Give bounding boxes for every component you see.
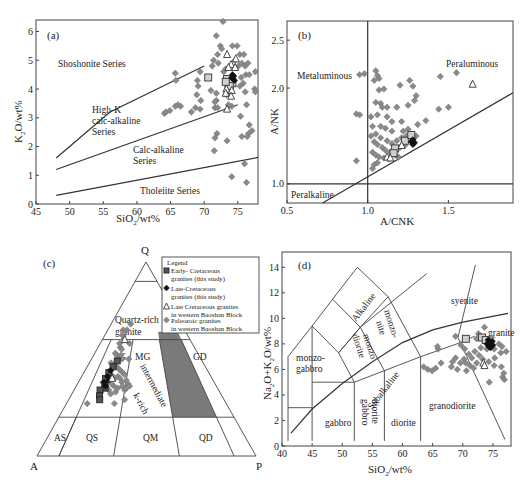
data-point-early-cretaceous [114, 358, 120, 364]
data-point-paleozoic [211, 148, 217, 154]
panel-b-ylabel: A/NK [268, 108, 280, 135]
field-monzogabbro-1: monzo- [296, 353, 325, 363]
field-high-k-2: calc-alkaline [92, 116, 141, 126]
field-metaluminous: Metaluminous [297, 71, 352, 81]
y-tick-label: 14 [269, 262, 279, 273]
data-point-late-cretaceous-baoshan [469, 80, 476, 87]
panel-b-xlabel: A/CNK [380, 215, 414, 227]
field-alkaline: Alkaline [350, 291, 378, 323]
apex-a: A [30, 460, 38, 472]
legend-entry-3a: Late Cretaceous granites [171, 303, 239, 310]
data-point-paleozoic [486, 379, 492, 385]
data-point-paleozoic [397, 82, 403, 88]
field-gabbro-diorite-2: diorite [370, 399, 380, 424]
legend-entry-1b: granites (this study) [171, 275, 225, 283]
data-point-paleozoic [384, 114, 390, 120]
panel-d-xlabel: SiO2/wt% [368, 463, 412, 478]
data-point-paleozoic [361, 70, 367, 76]
data-point-paleozoic [503, 348, 509, 354]
data-point-paleozoic [463, 367, 469, 373]
data-point-paleozoic [241, 51, 247, 57]
data-point-paleozoic [242, 89, 248, 95]
panel-d-tag: (d) [298, 259, 311, 272]
field-gabbro-diorite-1: gabbro [360, 399, 370, 426]
data-point-paleozoic [492, 355, 498, 361]
data-point-paleozoic [398, 118, 404, 124]
data-point-paleozoic [486, 359, 492, 365]
panel-b-tag: (b) [298, 29, 311, 42]
panel-d: 404550556065707502468101214 (d) syenite … [261, 252, 514, 478]
x-tick-label: 70 [458, 448, 468, 459]
legend-entry-1a: Early- Cretaceous [171, 267, 220, 274]
data-point-paleozoic [224, 138, 230, 144]
data-point-paleozoic [453, 70, 459, 76]
y-tick-label: 5 [28, 55, 33, 66]
data-point-paleozoic [437, 73, 443, 79]
data-point-paleozoic [194, 92, 200, 98]
x-tick-label: 50 [337, 448, 347, 459]
x-tick-label: 75 [488, 448, 498, 459]
apex-p: P [256, 460, 262, 472]
field-gd: GD [193, 352, 207, 362]
panel-c-tag: (c) [43, 257, 56, 270]
field-shoshonite: Shoshonite Series [58, 59, 126, 69]
y-tick-label: 2.0 [272, 83, 285, 94]
field-gabbro: gabbro [325, 418, 352, 428]
data-point-paleozoic [356, 71, 362, 77]
field-peralkaline: Peralkaline [291, 190, 334, 200]
data-point-paleozoic [436, 106, 442, 112]
legend: Legend Early- Cretaceous granites (this … [162, 257, 259, 333]
legend-entry-4b: in western Baoshan Block [171, 325, 243, 332]
panel-b-boundaries [287, 21, 513, 203]
legend-square-dark-icon [164, 268, 169, 273]
x-tick-label: 45 [307, 448, 317, 459]
data-point-paleozoic [237, 113, 243, 119]
data-point-paleozoic [376, 87, 382, 93]
data-point-paleozoic [234, 43, 240, 49]
panel-b-points [353, 68, 476, 172]
data-point-paleozoic [214, 51, 220, 57]
field-peraluminous: Peraluminous [446, 59, 499, 69]
data-point-paleozoic [213, 90, 219, 96]
data-point-paleozoic [84, 400, 90, 406]
data-point-paleozoic [498, 350, 504, 356]
panel-b-ticks: 0.51.01.51.02.02.5 [272, 35, 455, 216]
data-point-paleozoic [353, 158, 359, 164]
data-point-paleozoic [374, 112, 380, 118]
y-tick-label: 1.0 [272, 178, 285, 189]
data-point-paleozoic [498, 364, 504, 370]
apex-q: Q [141, 244, 149, 256]
field-diorite: diorite [391, 418, 416, 428]
y-tick-label: 1 [28, 170, 33, 181]
data-point-paleozoic [405, 102, 411, 108]
data-point-paleozoic [243, 102, 249, 108]
x-tick-label: 65 [428, 448, 438, 459]
data-point-late-cretaceous-baoshan [224, 51, 231, 58]
x-tick-label: 0.5 [281, 205, 294, 216]
boundary-line [323, 93, 514, 203]
field-syenite: syenite [451, 296, 478, 306]
x-tick-label: 1.0 [361, 205, 374, 216]
data-point-paleozoic [389, 118, 395, 124]
y-tick-label: 2 [274, 415, 279, 426]
field-mg: MG [135, 352, 150, 362]
x-tick-label: 50 [65, 206, 75, 217]
data-point-paleozoic [389, 128, 395, 134]
data-point-paleozoic [473, 360, 479, 366]
field-k-rich: k-rich [131, 391, 151, 416]
panel-a-ylabel: K2O/wt% [12, 100, 27, 143]
field-quartz-rich-1: Quartz-rich [115, 315, 159, 325]
data-point-paleozoic [452, 333, 458, 339]
figure: 455055606570750123456 (a) Shoshonite Ser… [0, 0, 528, 480]
data-point-paleozoic [448, 364, 454, 370]
field-qs: QS [86, 433, 98, 443]
data-point-paleozoic [445, 104, 451, 110]
y-tick-label: 0 [28, 199, 33, 210]
field-tholeiite: Tholeiite Series [140, 186, 200, 196]
data-point-paleozoic [239, 133, 245, 139]
y-tick-label: 2 [28, 141, 33, 152]
panel-c: (c) Q A P Quartz-rich granite SG MG GD i… [30, 244, 262, 472]
data-point-early-cretaceous [222, 78, 229, 85]
data-point-early-cretaceous [97, 387, 103, 393]
data-point-paleozoic [454, 366, 460, 372]
